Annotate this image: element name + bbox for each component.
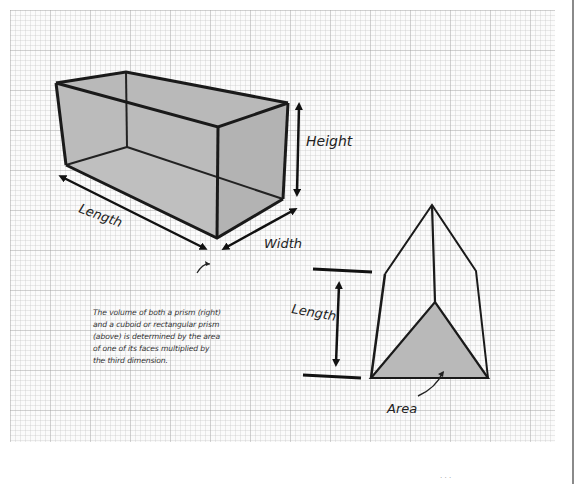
caption-line: the third dimension.	[93, 355, 243, 367]
caption-line: (above) is determined by the area	[93, 331, 243, 343]
prism-base-triangle	[371, 302, 488, 378]
prism-length-arrow	[336, 285, 339, 363]
caption-text: The volume of both a prism (right) and a…	[93, 307, 243, 367]
caption-line: and a cuboid or rectangular prism	[93, 319, 243, 331]
triangular-prism	[371, 205, 488, 378]
length-top-bar	[313, 269, 372, 272]
area-label: Area	[386, 401, 417, 416]
cropped-footer-text: · · ·	[440, 474, 451, 482]
caption-pointer-arrow	[197, 264, 210, 273]
width-label: Width	[264, 236, 302, 251]
length-bottom-bar	[303, 375, 361, 378]
prism-length-label: Length	[290, 301, 337, 324]
height-label: Height	[306, 133, 353, 149]
caption-line: of one of its faces multiplied by	[93, 343, 243, 355]
caption-line: The volume of both a prism (right)	[93, 307, 243, 319]
prism-diagram: Height Length Width Length Area	[0, 0, 577, 484]
height-arrow	[297, 106, 299, 193]
